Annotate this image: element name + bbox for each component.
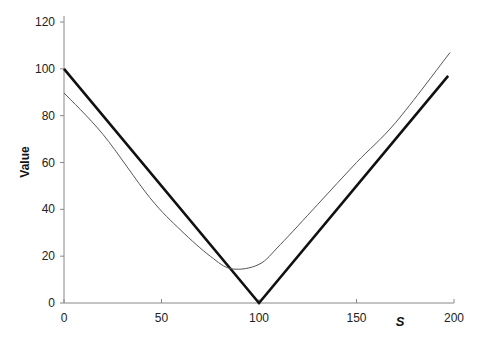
series bbox=[64, 52, 450, 303]
value-curve bbox=[64, 52, 450, 269]
y-tick-label: 80 bbox=[42, 109, 56, 123]
x-tick-label: 0 bbox=[61, 311, 68, 325]
y-tick-label: 40 bbox=[42, 202, 56, 216]
y-axis-title: Value bbox=[18, 146, 32, 178]
payoff-line bbox=[64, 69, 448, 303]
y-tick-label: 20 bbox=[42, 249, 56, 263]
axes: 020406080100120 050100150200 bbox=[35, 15, 464, 325]
x-tick-label: 150 bbox=[346, 311, 366, 325]
chart: 020406080100120 050100150200 Value S bbox=[0, 0, 482, 343]
y-tick-label: 0 bbox=[48, 296, 55, 310]
y-tick-label: 120 bbox=[35, 15, 55, 29]
y-tick-label: 100 bbox=[35, 62, 55, 76]
y-tick-label: 60 bbox=[42, 156, 56, 170]
y-ticks: 020406080100120 bbox=[35, 15, 64, 310]
x-tick-label: 200 bbox=[444, 311, 464, 325]
x-axis-title: S bbox=[396, 314, 405, 329]
x-tick-label: 50 bbox=[155, 311, 169, 325]
x-tick-label: 100 bbox=[249, 311, 269, 325]
